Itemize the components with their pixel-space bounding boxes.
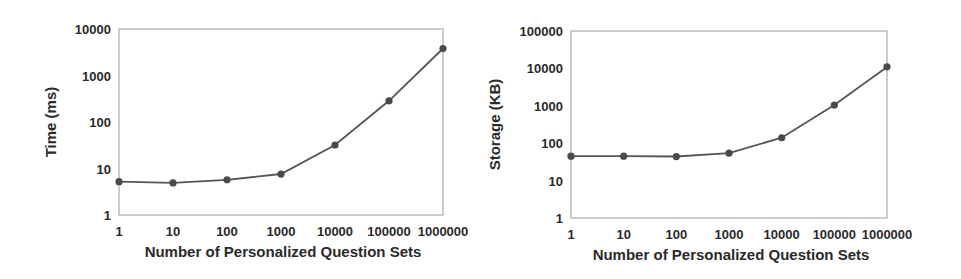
time-x-tick-label: 1000000 <box>418 224 469 239</box>
time-data-point <box>385 97 392 104</box>
storage-x-tick-label: 10000 <box>764 227 800 242</box>
time-y-tick-label: 1000 <box>82 69 111 84</box>
storage-y-tick-label: 10000 <box>527 61 563 76</box>
time-y-axis-label: Time (ms) <box>42 87 59 158</box>
storage-data-point <box>831 101 838 108</box>
time-series-line <box>119 49 443 183</box>
time-data-point <box>169 179 176 186</box>
time-x-tick-label: 10 <box>166 224 180 239</box>
time-x-tick-label: 100000 <box>367 224 410 239</box>
storage-data-point <box>778 134 785 141</box>
time-x-tick-label: 10000 <box>317 224 353 239</box>
time-x-axis-label: Number of Personalized Question Sets <box>145 243 422 260</box>
storage-x-tick-label: 1 <box>567 227 574 242</box>
storage-y-tick-label: 10 <box>549 174 563 189</box>
storage-x-tick-label: 100 <box>665 227 687 242</box>
time-data-point <box>277 170 284 177</box>
time-chart: 1101001000100001101001000100001000001000… <box>0 0 480 279</box>
storage-y-tick-label: 100 <box>541 136 563 151</box>
storage-data-point <box>567 153 574 160</box>
storage-x-axis-label: Number of Personalized Question Sets <box>593 246 870 263</box>
time-chart-svg: 1101001000100001101001000100001000001000… <box>0 0 480 279</box>
time-y-tick-label: 1 <box>104 208 111 223</box>
time-data-point <box>115 178 122 185</box>
storage-chart: 1101001000100001000001101001000100001000… <box>480 0 961 279</box>
storage-data-point <box>725 150 732 157</box>
storage-y-tick-label: 100000 <box>520 24 563 39</box>
storage-data-point <box>673 153 680 160</box>
time-data-point <box>223 176 230 183</box>
storage-y-tick-label: 1 <box>556 211 563 226</box>
storage-data-point <box>620 153 627 160</box>
storage-x-tick-label: 1000000 <box>862 227 913 242</box>
time-y-tick-label: 100 <box>89 115 111 130</box>
time-data-point <box>439 45 446 52</box>
storage-series-line <box>571 67 887 157</box>
time-x-tick-label: 100 <box>216 224 238 239</box>
time-x-tick-label: 1 <box>115 224 122 239</box>
storage-y-axis-label: Storage (KB) <box>486 79 503 171</box>
storage-x-tick-label: 10 <box>616 227 630 242</box>
storage-y-tick-label: 1000 <box>534 99 563 114</box>
time-y-tick-label: 10 <box>97 162 111 177</box>
time-x-tick-label: 1000 <box>267 224 296 239</box>
storage-x-tick-label: 1000 <box>715 227 744 242</box>
storage-plot-frame <box>571 31 887 218</box>
time-plot-frame <box>119 29 443 215</box>
time-y-tick-label: 10000 <box>75 22 111 37</box>
storage-x-tick-label: 100000 <box>813 227 856 242</box>
storage-chart-svg: 1101001000100001000001101001000100001000… <box>480 0 961 279</box>
storage-data-point <box>883 63 890 70</box>
time-data-point <box>331 141 338 148</box>
